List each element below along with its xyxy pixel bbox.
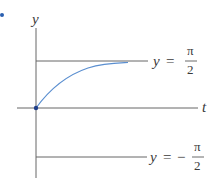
upper-asymptote-label: y = π 2 [151,43,197,77]
svg-text:−: − [177,149,185,165]
svg-text:=: = [166,53,174,69]
y-axis-label: y [30,11,39,27]
svg-text:π: π [194,139,201,154]
svg-text:2: 2 [187,62,194,77]
svg-text:y: y [148,149,157,165]
bullet-marker [0,13,4,17]
diagram: y t y = π 2 y = − π 2 [0,0,221,183]
initial-point [34,106,38,110]
svg-text:y: y [151,53,160,69]
svg-text:2: 2 [194,158,201,173]
svg-text:π: π [187,43,194,58]
lower-asymptote-label: y = − π 2 [148,139,204,173]
svg-text:=: = [163,149,171,165]
t-axis-label: t [202,99,207,115]
solution-curve [36,63,128,109]
